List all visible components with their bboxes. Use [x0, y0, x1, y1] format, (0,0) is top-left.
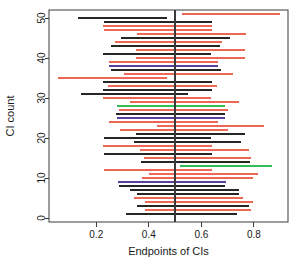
y-tick-label: 20 — [36, 132, 47, 144]
y-tick-label: 50 — [36, 12, 47, 24]
ci-plot-figure: 0.20.40.60.801020304050Endpoints of CIsC… — [0, 0, 302, 265]
y-tick-label: 40 — [36, 52, 47, 64]
y-axis-title: CI count — [4, 96, 16, 137]
x-tick-label: 0.6 — [194, 229, 208, 240]
y-tick-label: 0 — [36, 215, 47, 221]
y-tick-label: 30 — [36, 92, 47, 104]
y-tick-label: 10 — [36, 172, 47, 184]
x-tick-label: 0.4 — [142, 229, 156, 240]
x-axis-title: Endpoints of CIs — [128, 245, 209, 257]
x-tick-label: 0.2 — [89, 229, 103, 240]
chart-canvas: 0.20.40.60.801020304050Endpoints of CIsC… — [0, 0, 302, 265]
x-tick-label: 0.8 — [247, 229, 261, 240]
